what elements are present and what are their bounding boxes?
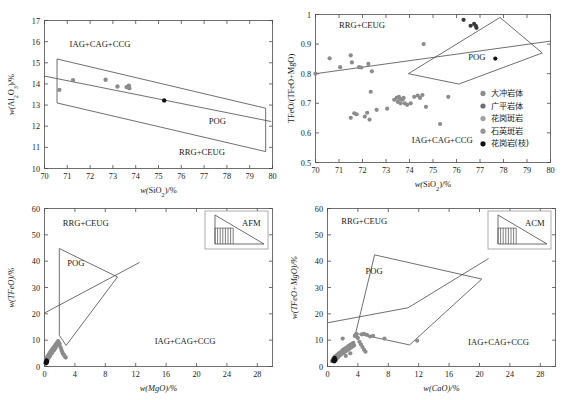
legend-marker bbox=[480, 141, 485, 146]
data-point bbox=[363, 115, 367, 119]
legend-marker bbox=[480, 91, 485, 96]
data-point bbox=[363, 350, 367, 354]
data-point bbox=[461, 18, 465, 22]
x-tick-label: 71 bbox=[335, 166, 343, 175]
y-tick-label: 14 bbox=[32, 80, 40, 89]
y-tick-label: 10 bbox=[32, 336, 40, 345]
x-tick-label: 76 bbox=[452, 166, 460, 175]
y-tick-label: 20 bbox=[315, 310, 323, 319]
x-tick-label: 28 bbox=[536, 370, 544, 379]
data-point bbox=[424, 105, 428, 109]
x-tick-label: 0 bbox=[42, 370, 46, 379]
legend-marker bbox=[480, 103, 485, 108]
data-point bbox=[328, 56, 332, 60]
x-tick-label: 24 bbox=[223, 370, 231, 379]
field-label: IAG+CAG+CCG bbox=[70, 39, 131, 49]
data-point bbox=[332, 359, 336, 363]
field-label: RRG+CEUG bbox=[341, 216, 387, 226]
data-point bbox=[409, 101, 413, 105]
data-point bbox=[352, 343, 356, 347]
x-tick-label: 74 bbox=[132, 172, 140, 181]
acm-inset: ACM bbox=[488, 211, 551, 249]
data-point bbox=[57, 88, 61, 92]
x-tick-label: 24 bbox=[506, 370, 514, 379]
y-tick-label: 60 bbox=[32, 205, 40, 214]
y-tick-label: 11 bbox=[32, 143, 40, 152]
field-label: IAG+CAG+CCG bbox=[155, 336, 216, 346]
data-point bbox=[162, 98, 166, 102]
data-point bbox=[438, 122, 442, 126]
panel-top-right: 70717273747576777879800.50.60.70.80.91 R… bbox=[284, 0, 567, 198]
panel-b-plot-area: 70717273747576777879800.50.60.70.80.91 R… bbox=[287, 11, 555, 192]
data-point bbox=[341, 336, 345, 340]
panel-d-svg: 04812162024280102030405060 RRG+CEUGPOGIA… bbox=[284, 198, 567, 400]
x-tick-label: 78 bbox=[499, 166, 507, 175]
x-tick-label: 16 bbox=[445, 370, 453, 379]
x-tick-label: 8 bbox=[386, 370, 390, 379]
data-point bbox=[51, 346, 55, 350]
x-tick-label: 74 bbox=[405, 166, 413, 175]
data-point bbox=[420, 93, 424, 97]
data-point bbox=[349, 53, 353, 57]
field-label: RRG+CEUG bbox=[179, 147, 225, 157]
field-label: POG bbox=[209, 116, 226, 126]
y-tick-label: 12 bbox=[32, 122, 40, 131]
x-tick-label: 12 bbox=[132, 370, 140, 379]
discrimination-fields bbox=[328, 255, 489, 345]
panel-c-svg: 04812162024280102030405060 RRG+CEUGPOGIA… bbox=[0, 198, 284, 400]
data-point bbox=[350, 60, 354, 64]
legend: 大冲岩体广平岩体花岗斑岩石英斑岩花岗岩(枝) bbox=[480, 88, 528, 148]
axis-titles: w(CaO)/%w(TFeO+MgO)/% bbox=[290, 256, 460, 392]
data-point bbox=[127, 86, 131, 90]
field-upper-boundary bbox=[57, 59, 266, 152]
legend-label: 花岗岩(枝) bbox=[491, 138, 529, 148]
data-point bbox=[474, 26, 478, 30]
y-tick-label: 60 bbox=[315, 205, 323, 214]
field-label: RRG+CEUG bbox=[63, 218, 109, 228]
data-point bbox=[493, 57, 497, 61]
afm-inset: AFM bbox=[205, 211, 268, 249]
panel-b-svg: 70717273747576777879800.50.60.70.80.91 R… bbox=[284, 0, 567, 198]
x-tick-label: 72 bbox=[358, 166, 366, 175]
field-label: POG bbox=[67, 258, 84, 268]
field-label: IAG+CAG+CCG bbox=[412, 135, 473, 145]
field-label: IAG+CAG+CCG bbox=[468, 337, 529, 347]
y-tick-label: 17 bbox=[32, 17, 40, 26]
data-point bbox=[370, 69, 374, 73]
data-point bbox=[371, 334, 375, 338]
x-tick-label: 80 bbox=[546, 166, 554, 175]
data-point bbox=[398, 101, 402, 105]
x-tick-label: 79 bbox=[246, 172, 254, 181]
x-tick-label: 70 bbox=[311, 166, 319, 175]
x-tick-label: 8 bbox=[103, 370, 107, 379]
y-tick-label: 40 bbox=[32, 257, 40, 266]
data-point bbox=[103, 78, 107, 82]
data-point bbox=[375, 108, 379, 112]
y-tick-label: 10 bbox=[32, 165, 40, 174]
data-point bbox=[71, 78, 75, 82]
y-tick-label: 1 bbox=[307, 11, 311, 20]
x-tick-label: 79 bbox=[523, 166, 531, 175]
x-tick-label: 78 bbox=[223, 172, 231, 181]
data-point bbox=[348, 351, 352, 355]
inset-frame bbox=[488, 211, 551, 249]
field-label: POG bbox=[366, 266, 383, 276]
data-point bbox=[359, 65, 363, 69]
x-tick-label: 28 bbox=[253, 370, 261, 379]
y-tick-label: 0.5 bbox=[301, 159, 311, 168]
axis-title: w(TFeO+MgO)/% bbox=[290, 256, 299, 319]
data-point bbox=[64, 355, 68, 359]
field-label: RRG+CEUG bbox=[339, 20, 385, 30]
data-point bbox=[338, 65, 342, 69]
y-tick-label: 30 bbox=[32, 284, 40, 293]
y-tick-label: 50 bbox=[315, 231, 323, 240]
field-labels: IAG+CAG+CCGPOGRRG+CEUG bbox=[70, 39, 226, 157]
discrimination-fields bbox=[45, 59, 272, 152]
panel-c-plot-area: 04812162024280102030405060 RRG+CEUGPOGIA… bbox=[7, 205, 273, 393]
panel-bottom-left: 04812162024280102030405060 RRG+CEUGPOGIA… bbox=[0, 198, 284, 400]
data-point bbox=[446, 95, 450, 99]
data-point bbox=[355, 112, 359, 116]
legend-label: 花岗斑岩 bbox=[491, 113, 523, 123]
x-tick-label: 75 bbox=[154, 172, 162, 181]
panel-a-plot-area: 70717273747576777879801011121314151617 I… bbox=[7, 17, 277, 198]
